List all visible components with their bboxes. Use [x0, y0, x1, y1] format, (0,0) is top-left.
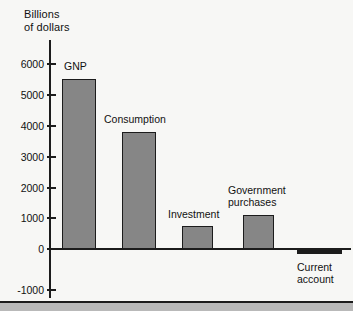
y-tick-mark: [47, 94, 56, 96]
y-tick-mark: [47, 187, 56, 189]
bar-current-account: [297, 250, 342, 254]
bar-gnp: [62, 79, 96, 249]
y-axis-line: [49, 40, 51, 298]
y-axis-title: Billions of dollars: [24, 8, 70, 33]
bottom-band: [0, 303, 353, 311]
y-tick-mark: [47, 289, 56, 291]
y-tick-label-0: 0: [38, 243, 44, 255]
y-tick-5000: 5000: [0, 89, 58, 101]
y-tick-3000: 3000: [0, 151, 58, 163]
y-tick-label-1000: 1000: [21, 212, 44, 224]
bar-label-gnp: GNP: [64, 60, 87, 72]
y-tick-label-6000: 6000: [21, 58, 44, 70]
y-tick-1000: 1000: [0, 212, 58, 224]
bar-label-investment: Investment: [168, 208, 219, 220]
y-tick-label-2000: 2000: [21, 182, 44, 194]
bar-government-purchases: [243, 215, 274, 249]
y-tick-mark: [47, 156, 56, 158]
bar-label-consumption: Consumption: [104, 113, 166, 125]
y-tick-0: 0: [0, 243, 58, 255]
bar-investment: [182, 226, 213, 249]
y-tick-mark: [47, 248, 56, 250]
y-tick-6000: 6000: [0, 58, 58, 70]
bar-consumption: [122, 132, 156, 249]
y-tick-label-5000: 5000: [21, 89, 44, 101]
bar-label-current-account: Currentaccount: [297, 261, 334, 285]
y-tick-label-minus-1000: -1000: [17, 284, 44, 296]
chart-figure: Billions of dollars 6000 5000 4000 3000 …: [0, 0, 353, 311]
y-tick-label-4000: 4000: [21, 120, 44, 132]
plot-area: Billions of dollars 6000 5000 4000 3000 …: [0, 0, 353, 299]
y-tick-minus-1000: -1000: [0, 284, 58, 296]
y-tick-4000: 4000: [0, 120, 58, 132]
bar-label-government-purchases: Governmentpurchases: [228, 184, 286, 208]
y-tick-mark: [47, 125, 56, 127]
y-tick-mark: [47, 63, 56, 65]
y-tick-mark: [47, 217, 56, 219]
y-tick-2000: 2000: [0, 182, 58, 194]
y-tick-label-3000: 3000: [21, 151, 44, 163]
